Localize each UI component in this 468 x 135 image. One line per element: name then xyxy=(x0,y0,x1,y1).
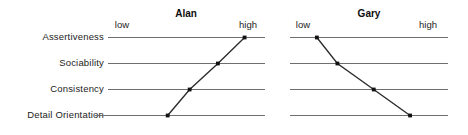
axis-lines-group xyxy=(95,38,448,116)
alan-axis-high-label: high xyxy=(239,20,257,30)
trait-label-column: Assertiveness Sociability Consistency De… xyxy=(0,0,104,135)
trait-label-consistency: Consistency xyxy=(0,84,104,94)
data-point-gary-assertiveness xyxy=(315,36,319,40)
alan-axis-low-label: low xyxy=(115,20,129,30)
data-point-gary-sociability xyxy=(336,62,340,66)
data-point-alan-consistency xyxy=(188,88,192,92)
trait-label-sociability: Sociability xyxy=(0,58,104,68)
trait-label-assertiveness: Assertiveness xyxy=(0,32,104,42)
data-point-gary-consistency xyxy=(372,88,376,92)
series-group xyxy=(166,36,412,118)
data-point-alan-sociability xyxy=(216,62,220,66)
profile-line-alan xyxy=(168,38,245,116)
data-point-gary-detail-orientation xyxy=(408,114,412,118)
panel-title-gary: Gary xyxy=(358,8,381,19)
data-point-alan-detail-orientation xyxy=(166,114,170,118)
panel-title-alan: Alan xyxy=(175,8,197,19)
gary-axis-high-label: high xyxy=(419,20,437,30)
trait-label-detail-orientation: Detail Orientation xyxy=(0,110,104,120)
gary-axis-low-label: low xyxy=(296,20,310,30)
data-point-alan-assertiveness xyxy=(243,36,247,40)
personality-profile-figure: Assertiveness Sociability Consistency De… xyxy=(0,0,468,135)
profile-line-gary xyxy=(317,38,410,116)
